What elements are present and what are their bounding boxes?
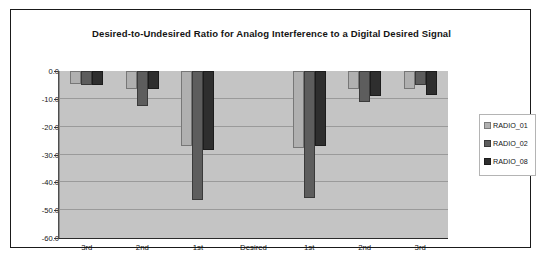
x-axis-line <box>59 238 448 239</box>
bar-group <box>337 71 393 238</box>
bar[interactable] <box>92 71 103 85</box>
legend-item-label: RADIO_01 <box>493 121 528 130</box>
bar[interactable] <box>404 71 415 89</box>
bar-group <box>170 71 226 238</box>
bar[interactable] <box>148 71 159 89</box>
bar[interactable] <box>70 71 81 84</box>
bar-set <box>392 71 448 238</box>
bar[interactable] <box>370 71 381 96</box>
x-axis-tick-label: 3rd <box>59 241 115 257</box>
y-axis: 0.0-10.0-20.0-30.0-40.0-50.0-60.0 <box>11 71 59 239</box>
bar[interactable] <box>426 71 437 95</box>
bar-groups <box>59 71 448 238</box>
bar-set <box>59 71 115 238</box>
x-axis-tick-label: 2nd <box>115 241 171 257</box>
bar-set <box>115 71 171 238</box>
bar[interactable] <box>359 71 370 102</box>
y-axis-tick-label: -60.0 <box>17 234 59 243</box>
bar[interactable] <box>293 71 304 148</box>
chart-frame: Desired-to-Undesired Ratio for Analog In… <box>10 9 531 248</box>
bar[interactable] <box>181 71 192 146</box>
x-axis-labels: 3rd2nd1stDesired1st2nd3rd <box>59 241 448 257</box>
bar[interactable] <box>81 71 92 85</box>
x-axis-tick-label: 1st <box>281 241 337 257</box>
chart-legend: RADIO_01RADIO_02RADIO_08 <box>479 114 536 176</box>
bar-set <box>170 71 226 238</box>
bar[interactable] <box>348 71 359 89</box>
bar[interactable] <box>192 71 203 200</box>
legend-item[interactable]: RADIO_01 <box>484 121 535 130</box>
bar[interactable] <box>203 71 214 150</box>
bar-group <box>115 71 171 238</box>
chart-title: Desired-to-Undesired Ratio for Analog In… <box>11 28 532 39</box>
x-axis-tick-label: 2nd <box>337 241 393 257</box>
bar-group <box>226 71 282 238</box>
bar[interactable] <box>137 71 148 106</box>
bar[interactable] <box>415 71 426 85</box>
legend-item[interactable]: RADIO_08 <box>484 157 535 166</box>
bar[interactable] <box>315 71 326 146</box>
legend-item-label: RADIO_02 <box>493 139 528 148</box>
legend-item-label: RADIO_08 <box>493 157 528 166</box>
bar[interactable] <box>126 71 137 89</box>
bar[interactable] <box>304 71 315 198</box>
legend-item[interactable]: RADIO_02 <box>484 139 535 148</box>
y-axis-tick-label: -10.0 <box>17 94 59 103</box>
y-axis-tick-label: -50.0 <box>17 206 59 215</box>
bar-set <box>281 71 337 238</box>
bar-set <box>226 71 282 238</box>
bar-set <box>337 71 393 238</box>
legend-swatch-icon <box>484 122 491 129</box>
legend-swatch-icon <box>484 140 491 147</box>
legend-swatch-icon <box>484 158 491 165</box>
x-axis-tick-label: 1st <box>170 241 226 257</box>
chart-screenshot: Desired-to-Undesired Ratio for Analog In… <box>0 0 544 266</box>
y-axis-tick-label: -20.0 <box>17 122 59 131</box>
y-axis-tick-label: -30.0 <box>17 150 59 159</box>
y-axis-tick-label: -40.0 <box>17 178 59 187</box>
y-axis-tick-label: 0.0 <box>17 67 59 76</box>
x-axis-tick-label: Desired <box>226 241 282 257</box>
bar-group <box>281 71 337 238</box>
bar-group <box>59 71 115 238</box>
bar-group <box>392 71 448 238</box>
x-axis-tick-label: 3rd <box>392 241 448 257</box>
